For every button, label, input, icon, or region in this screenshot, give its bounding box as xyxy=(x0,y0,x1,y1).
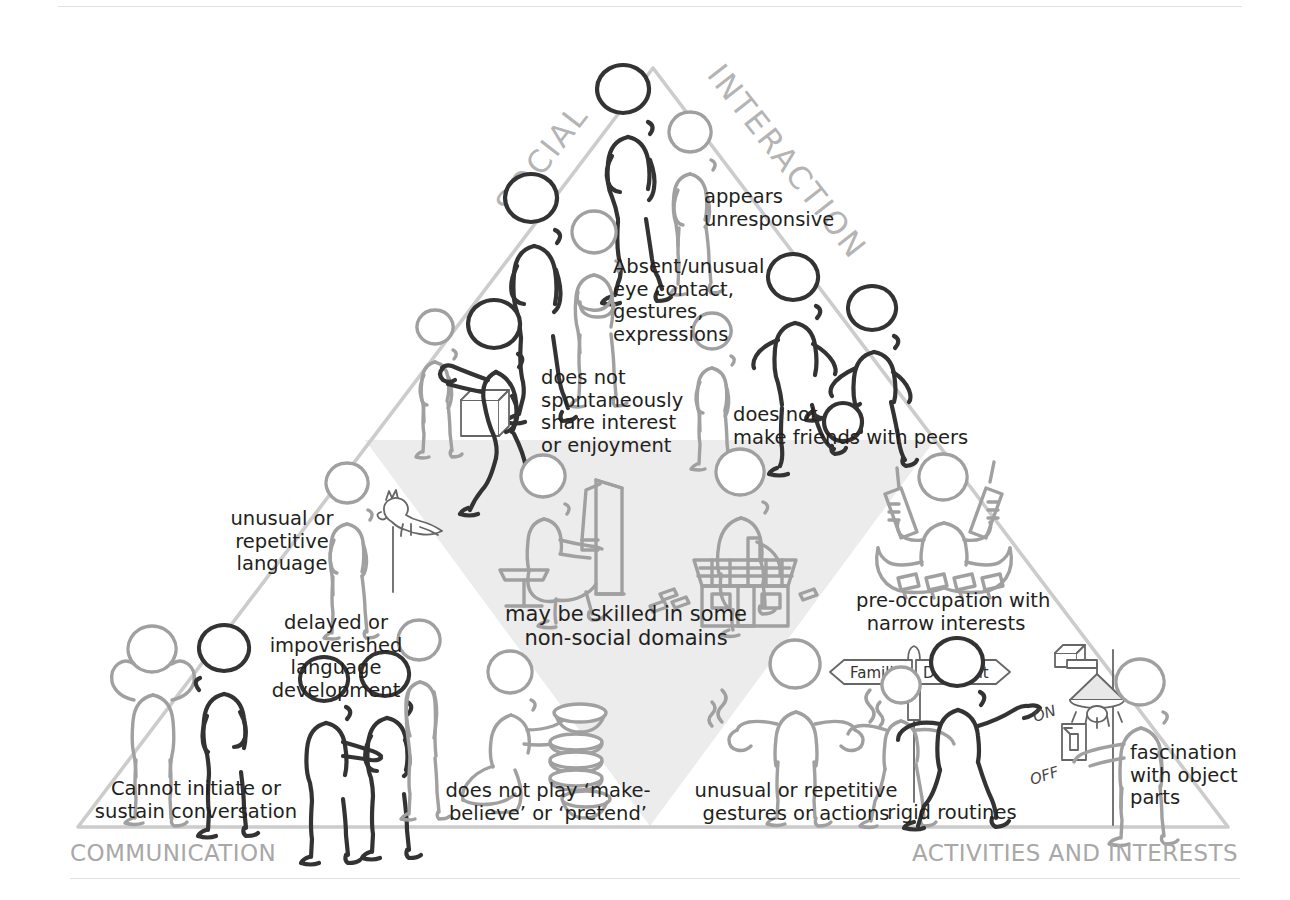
caption-pre-occupation-narrow-interests: pre-occupation with narrow interests xyxy=(856,590,1036,635)
domain-label-activities-interests: ACTIVITIES AND INTERESTS xyxy=(912,840,1238,866)
caption-appears-unresponsive: appears unresponsive xyxy=(704,186,834,231)
caption-does-not-share-interest: does not spontaneously share interest or… xyxy=(541,367,683,457)
switch-off-label: OFF xyxy=(1028,763,1062,789)
caption-cannot-initiate-conversation: Cannot initiate or sustain conversation xyxy=(86,778,306,823)
caption-rigid-routines: rigid routines xyxy=(872,802,1032,825)
caption-does-not-make-friends: does not make friends with peers xyxy=(733,404,968,449)
domain-label-communication: COMMUNICATION xyxy=(70,840,276,866)
figure-pre-occupation-narrow-interests xyxy=(877,454,1012,598)
caption-delayed-language-development: delayed or impoverished language develop… xyxy=(256,612,416,702)
caption-absent-unusual-eye-contact: Absent/unusual eye contact, gestures, ex… xyxy=(613,256,764,346)
caption-may-be-skilled: may be skilled in some non-social domain… xyxy=(476,602,776,651)
diagram-canvas: SOCIAL INTERACTION xyxy=(0,0,1290,900)
caption-unusual-repetitive-language: unusual or repetitive language xyxy=(222,508,342,576)
caption-does-not-play-pretend: does not play ‘make- believe’ or ‘preten… xyxy=(443,780,653,825)
caption-fascination-object-parts: fascination with object parts xyxy=(1130,742,1238,810)
edge-word-interaction: INTERACTION xyxy=(700,57,874,266)
